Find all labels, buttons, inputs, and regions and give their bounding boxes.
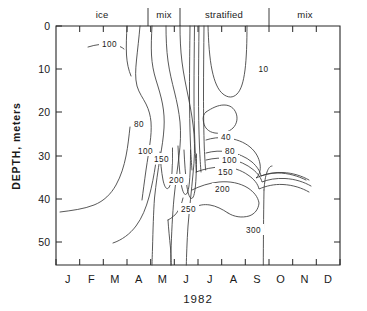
contour-line-80: [136, 26, 152, 200]
contour-label-200-right: 200: [215, 185, 230, 194]
x-tick-label-jan: J: [65, 273, 71, 285]
y-axis-title: DEPTH, meters: [10, 102, 22, 190]
y-tick-label-30: 30: [38, 150, 50, 162]
x-tick-label-may: M: [158, 273, 167, 285]
contour-label-10: 10: [259, 65, 269, 74]
x-axis-title-group: 1982: [183, 293, 213, 305]
contour-label-80: 80: [134, 120, 144, 129]
y-tick-label-0: 0: [44, 20, 50, 32]
contour-line-10-inner: [203, 105, 237, 133]
x-tick-label-nov: N: [300, 273, 308, 285]
contour-plot-figure: 0 10 20 30 40 50 DEPTH, meters: [0, 0, 367, 311]
plot-canvas: 0 10 20 30 40 50 DEPTH, meters: [0, 0, 367, 311]
region-label-ice: ice: [96, 9, 109, 20]
region-label-mix-left: mix: [156, 9, 171, 20]
contour-line-bundle-c: [199, 26, 202, 172]
contour-line-bundle-a: [190, 26, 193, 170]
contour-line-deep-left-tongue-2: [113, 165, 156, 243]
contour-line-200-right-wrap: [194, 205, 228, 213]
x-tick-label-jun: J: [183, 273, 189, 285]
contour-line-250-tail: [168, 220, 171, 265]
contour-line-150: [166, 26, 181, 265]
x-axis-title: 1982: [183, 293, 213, 305]
y-tick-label-10: 10: [38, 63, 50, 75]
x-tick-label-aug: A: [230, 273, 238, 285]
contour-line-deep-left-tongue: [60, 127, 130, 212]
x-tick-label-sep: S: [253, 273, 261, 285]
contour-line-interior-left: [126, 26, 131, 76]
contour-label-300: 300: [246, 226, 261, 235]
x-axis-tick-labels: J F M A M J J A S O N D: [65, 273, 332, 285]
y-axis-tick-labels: 0 10 20 30 40 50: [38, 20, 50, 248]
y-tick-label-20: 20: [38, 106, 50, 118]
contour-label-150: 150: [154, 155, 169, 164]
contour-label-200: 200: [169, 176, 184, 185]
y-axis-title-group: DEPTH, meters: [10, 102, 22, 190]
contour-line-200: [180, 26, 195, 265]
contour-label-100-right: 100: [222, 156, 237, 165]
contour-label-80-right: 80: [225, 147, 235, 156]
x-tick-label-apr: A: [135, 273, 143, 285]
region-labels: ice mix stratified mix: [96, 9, 313, 20]
contour-label-150-right: 150: [218, 168, 233, 177]
region-label-stratified: stratified: [205, 9, 243, 20]
x-tick-label-dec: D: [324, 273, 332, 285]
contour-label-100-early: 100: [102, 40, 117, 49]
contour-line-10: [208, 26, 247, 97]
x-tick-label-mar: M: [110, 273, 119, 285]
x-axis-ticks: [56, 26, 340, 265]
region-label-mix-right: mix: [297, 9, 312, 20]
contour-label-250: 250: [181, 205, 196, 214]
y-tick-label-40: 40: [38, 193, 50, 205]
x-tick-label-jul: J: [207, 273, 213, 285]
contour-line-bundle-d: [204, 26, 206, 170]
x-tick-label-feb: F: [88, 273, 95, 285]
contour-label-100-left: 100: [138, 147, 153, 156]
y-tick-label-50: 50: [38, 236, 50, 248]
contour-label-40: 40: [221, 133, 231, 142]
plot-frame: [56, 26, 340, 265]
contour-lines-group: [60, 26, 311, 265]
x-tick-label-oct: O: [276, 273, 285, 285]
